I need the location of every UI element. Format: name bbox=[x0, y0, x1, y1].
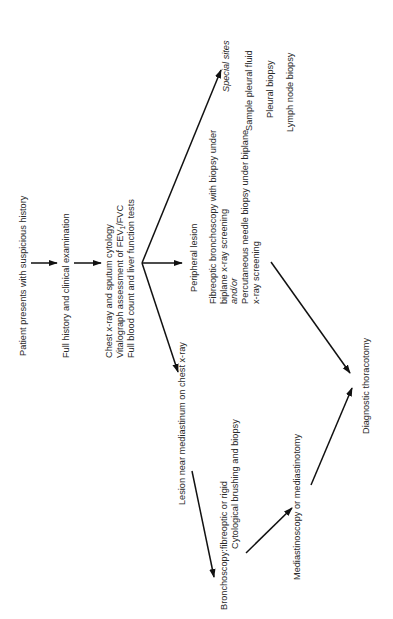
node-special-sites-title: Special sites bbox=[221, 40, 231, 92]
node-peripheral-lesion: Peripheral lesion bbox=[189, 224, 199, 292]
arrow-tests-to-mediastinum bbox=[142, 263, 178, 372]
node-tests: Chest x-ray and sputum cytology Vitalogr… bbox=[104, 199, 136, 358]
node-patient: Patient presents with suspicious history bbox=[18, 195, 28, 356]
peripheral-and-or: and/or bbox=[229, 277, 239, 304]
peripheral-option-1: Fibreoptic bronchoscopy with biopsy unde… bbox=[208, 130, 218, 304]
bronchoscopy-line-2: Cytological brushing and biopsy bbox=[230, 419, 240, 549]
arrow-mediastinum-to-bronchoscopy bbox=[192, 471, 214, 577]
arrow-mediastinoscopy-to-thoracotomy bbox=[311, 388, 352, 485]
tests-line-1: Chest x-ray and sputum cytology bbox=[104, 224, 114, 358]
arrow-peripheral-to-thoracotomy bbox=[271, 262, 350, 373]
tests-fev-tail: /FVC bbox=[115, 205, 125, 226]
node-mediastinum-lesion: Lesion near mediastinum on chest x-ray bbox=[177, 342, 187, 505]
bronchoscopy-label: Bronchoscopy: bbox=[219, 549, 229, 610]
arrow-bronchoscopy-to-mediastinoscopy bbox=[246, 508, 292, 553]
node-mediastinoscopy: Mediastinoscopy or mediastinotomy bbox=[292, 434, 302, 580]
peripheral-option-3: Percutaneous needle biopsy under biplane bbox=[240, 130, 250, 304]
peripheral-option-2: biplane x-ray screening bbox=[219, 209, 229, 304]
node-diagnostic-thoracotomy: Diagnostic thoracotomy bbox=[361, 338, 371, 434]
special-site-item: Lymph node biopsy bbox=[285, 52, 295, 132]
special-site-item: Sample pleural fluid bbox=[244, 50, 254, 131]
bronchoscopy-line-1: fibreoptic or rigid bbox=[219, 481, 229, 549]
node-bronchoscopy: Bronchoscopy: fibreoptic or rigid Cytolo… bbox=[219, 419, 240, 610]
tests-line-2: Vitalograph assessment of FEV1/FVC bbox=[115, 205, 126, 358]
diagnostic-flowchart: Patient presents with suspicious history… bbox=[0, 0, 393, 619]
peripheral-option-4: x-ray screening bbox=[251, 241, 261, 304]
special-site-item: Pleural biopsy bbox=[265, 60, 275, 118]
node-special-sites-list: Sample pleural fluid Pleural biopsy Lymp… bbox=[244, 50, 295, 132]
node-peripheral-options: Fibreoptic bronchoscopy with biopsy unde… bbox=[208, 130, 261, 304]
node-history: Full history and clinical examination bbox=[61, 213, 71, 358]
tests-line-2-main: Vitalograph assessment of FEV bbox=[115, 229, 125, 358]
tests-line-3: Full blood count and liver function test… bbox=[126, 199, 136, 358]
